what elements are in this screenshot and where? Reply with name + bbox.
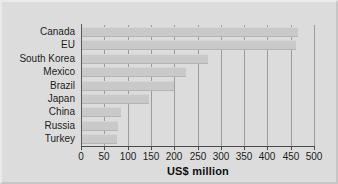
bar xyxy=(81,134,117,144)
bar xyxy=(81,67,186,77)
x-axis-tick xyxy=(104,146,105,150)
category-label: Japan xyxy=(2,93,78,104)
bar xyxy=(81,40,296,50)
category-label: Mexico xyxy=(2,66,78,77)
bar xyxy=(81,94,149,104)
x-axis-tick xyxy=(174,146,175,150)
bar xyxy=(81,27,298,37)
x-axis-title: US$ million xyxy=(81,165,315,177)
gridline xyxy=(314,25,315,146)
x-axis-tick xyxy=(314,146,315,150)
bar xyxy=(81,81,174,91)
bar-chart-figure: CanadaEUSouth KoreaMexicoBrazilJapanChin… xyxy=(0,0,338,184)
x-axis-tick xyxy=(221,146,222,150)
x-axis-tick xyxy=(128,146,129,150)
x-axis-tick xyxy=(244,146,245,150)
y-axis-line xyxy=(81,24,82,147)
x-axis-ticklabel: 500 xyxy=(299,151,329,162)
x-axis-tick xyxy=(267,146,268,150)
category-label: South Korea xyxy=(2,53,78,64)
category-label: China xyxy=(2,106,78,117)
x-axis-tick xyxy=(198,146,199,150)
category-label: EU xyxy=(2,39,78,50)
category-label: Brazil xyxy=(2,80,78,91)
category-label: Turkey xyxy=(2,133,78,144)
x-axis-tick xyxy=(291,146,292,150)
category-label: Canada xyxy=(2,26,78,37)
category-label: Russia xyxy=(2,120,78,131)
bar xyxy=(81,107,121,117)
bar xyxy=(81,121,118,131)
x-axis-tick xyxy=(81,146,82,150)
x-axis-tick xyxy=(151,146,152,150)
bar xyxy=(81,54,208,64)
